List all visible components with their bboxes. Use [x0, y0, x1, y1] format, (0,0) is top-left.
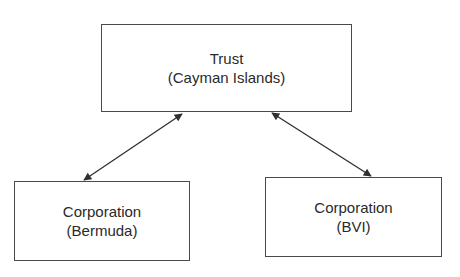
node-title: Corporation	[63, 202, 141, 221]
node-title: Trust	[210, 49, 244, 68]
node-subtitle: (Cayman Islands)	[168, 68, 286, 87]
node-trust-cayman-islands: Trust (Cayman Islands)	[101, 24, 352, 112]
node-subtitle: (BVI)	[336, 217, 370, 236]
edge-trust-bermuda	[84, 114, 182, 180]
node-corporation-bvi: Corporation (BVI)	[265, 177, 442, 257]
node-corporation-bermuda: Corporation (Bermuda)	[14, 181, 190, 261]
node-title: Corporation	[314, 198, 392, 217]
edge-trust-bvi	[272, 113, 371, 176]
node-subtitle: (Bermuda)	[67, 221, 138, 240]
